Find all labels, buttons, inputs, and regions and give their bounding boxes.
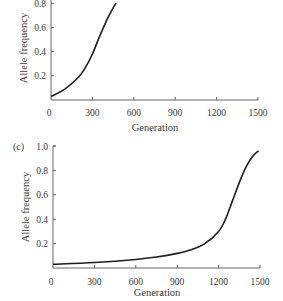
chart-panel-c: (c) 0.20.40.60.81.0 030060090012001500 A… <box>13 141 270 298</box>
x-tick-label: 300 <box>87 277 102 287</box>
x-tick-label: 600 <box>127 108 142 118</box>
chart-panel-b: 0.20.40.60.8 030060090012001500 Allele f… <box>18 0 268 133</box>
x-tick-label: 900 <box>168 108 183 118</box>
x-tick-label: 900 <box>170 277 185 287</box>
x-tick-label: 600 <box>129 277 144 287</box>
y-axis-title-c: Allele frequency <box>20 171 31 242</box>
x-tick-label: 1200 <box>209 277 228 287</box>
x-axis-title-b: Generation <box>132 122 179 133</box>
x-tick-label: 0 <box>47 108 52 118</box>
panel-label-c: (c) <box>13 141 24 153</box>
y-tick-label: 0.2 <box>34 71 46 81</box>
x-tick-label: 300 <box>85 108 100 118</box>
x-tick-label: 1500 <box>249 108 268 118</box>
y-tick-label: 0.6 <box>36 190 48 200</box>
y-tick-label: 0.2 <box>36 239 48 249</box>
y-axis-title-b: Allele frequency <box>18 12 29 83</box>
y-tick-label: 0.6 <box>34 23 46 33</box>
y-tick-label: 0.4 <box>34 47 46 57</box>
x-tick-label: 0 <box>49 277 54 287</box>
x-tick-label: 1500 <box>251 277 270 287</box>
y-tick-label: 1.0 <box>36 142 48 152</box>
x-axis-title-c: Generation <box>134 287 181 298</box>
y-tick-label: 0.4 <box>36 215 48 225</box>
figure: 0.20.40.60.8 030060090012001500 Allele f… <box>0 0 283 301</box>
y-tick-label: 0.8 <box>34 0 46 9</box>
y-tick-label: 0.8 <box>36 166 48 176</box>
x-tick-label: 1200 <box>207 108 226 118</box>
data-line-b <box>51 3 116 96</box>
data-line-c <box>53 151 259 264</box>
